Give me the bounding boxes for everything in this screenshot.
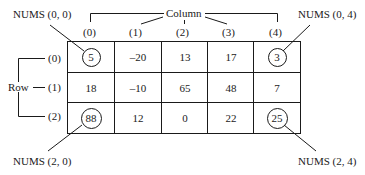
matrix-cell-0-0: 5 <box>68 42 114 72</box>
matrix-cell-2-3: 22 <box>208 103 254 133</box>
matrix-cell-2-2: 0 <box>162 103 208 133</box>
row-index-1: (1) <box>48 82 61 93</box>
column-index-3: (3) <box>222 27 235 38</box>
matrix-cell-2-0: 88 <box>68 103 114 133</box>
callout-top-left: NUMS (0, 0) <box>13 9 71 20</box>
row-index-0: (0) <box>48 53 61 64</box>
column-index-1: (1) <box>129 27 142 38</box>
row-axis-label: Row <box>8 82 29 93</box>
callout-top-right: NUMS (0, 4) <box>298 9 356 20</box>
highlight-circle: 88 <box>81 108 102 129</box>
matrix-cell-2-4: 25 <box>254 103 300 133</box>
matrix-cell-0-3: 17 <box>208 42 254 72</box>
column-index-2: (2) <box>176 27 189 38</box>
callout-bottom-left: NUMS (2, 0) <box>13 156 71 167</box>
matrix-cell-0-4: 3 <box>254 42 300 72</box>
matrix-cell-1-0: 18 <box>68 73 114 103</box>
matrix-cell-1-4: 7 <box>254 73 300 103</box>
highlight-circle: 3 <box>268 48 287 67</box>
matrix-cell-0-2: 13 <box>162 42 208 72</box>
matrix-cell-1-3: 48 <box>208 73 254 103</box>
callout-bottom-right: NUMS (2, 4) <box>298 156 356 167</box>
column-axis-label: Column <box>166 8 201 19</box>
column-index-0: (0) <box>83 27 96 38</box>
row-index-2: (2) <box>48 111 61 122</box>
column-index-4: (4) <box>269 27 282 38</box>
matrix-cell-2-1: 12 <box>115 103 161 133</box>
matrix-cell-1-1: –10 <box>115 73 161 103</box>
matrix-cell-1-2: 65 <box>162 73 208 103</box>
matrix-cell-0-1: –20 <box>115 42 161 72</box>
highlight-circle: 25 <box>267 108 288 129</box>
highlight-circle: 5 <box>82 48 101 67</box>
